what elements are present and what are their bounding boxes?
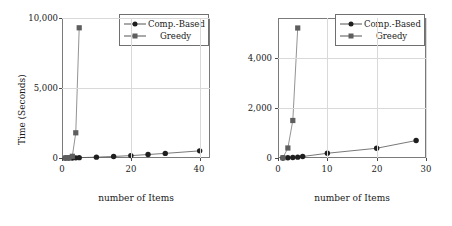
y-tick-label-right-1: 2,000	[226, 104, 272, 113]
circle-marker-icon	[124, 18, 146, 30]
x-axis-tick	[278, 158, 279, 161]
y-axis-tick	[275, 108, 278, 109]
circle-marker-icon	[413, 138, 418, 143]
x-tick-label-left-0: 0	[47, 165, 77, 174]
x-axis-tick	[200, 158, 201, 161]
x-axis-title-left: number of Items	[98, 194, 174, 203]
circle-marker-icon	[145, 152, 150, 157]
square-marker-icon	[285, 145, 290, 150]
x-gridline	[131, 18, 132, 158]
x-axis-tick	[377, 158, 378, 161]
chart-panel-right: 4,000 2,000 0 0 10 20 30 number of Items…	[226, 0, 452, 226]
legend-entry-comp-based-left: Comp.-Based	[124, 18, 203, 30]
y-axis-tick	[59, 88, 62, 89]
legend-label-comp-based-left: Comp.-Based	[146, 20, 205, 29]
x-axis-tick	[131, 158, 132, 161]
square-marker-icon	[77, 25, 82, 30]
x-gridline	[327, 18, 328, 158]
figure-two-panel-line-charts: 10,000 5,000 0 0 20 40 Time (Seconds) nu…	[0, 0, 452, 226]
y-axis-tick	[59, 18, 62, 19]
x-tick-label-right-1: 10	[312, 165, 342, 174]
y-gridline	[62, 88, 210, 89]
square-marker-icon	[340, 30, 362, 42]
square-marker-icon	[73, 130, 78, 135]
circle-marker-icon	[111, 154, 116, 159]
x-axis-title-right: number of Items	[314, 194, 390, 203]
legend-entry-greedy-left: Greedy	[124, 30, 203, 42]
x-gridline	[200, 18, 201, 158]
legend-label-greedy-left: Greedy	[146, 32, 191, 41]
circle-marker-icon	[340, 18, 362, 30]
y-tick-label-right-0: 4,000	[226, 54, 272, 63]
circle-marker-icon	[290, 155, 295, 160]
x-gridline	[377, 18, 378, 158]
circle-marker-icon	[300, 154, 305, 159]
circle-marker-icon	[94, 154, 99, 159]
x-axis-tick	[327, 158, 328, 161]
y-tick-label-left-1: 5,000	[6, 84, 58, 93]
circle-marker-icon	[285, 155, 290, 160]
square-marker-icon	[280, 155, 285, 160]
x-tick-label-left-1: 20	[116, 165, 146, 174]
x-tick-label-right-3: 30	[411, 165, 441, 174]
square-marker-icon	[290, 118, 295, 123]
y-gridline	[278, 58, 426, 59]
chart-panel-left: 10,000 5,000 0 0 20 40 Time (Seconds) nu…	[0, 0, 226, 226]
circle-marker-icon	[77, 155, 82, 160]
square-marker-icon	[124, 30, 146, 42]
y-tick-label-left-0: 10,000	[6, 14, 58, 23]
y-axis-tick	[275, 58, 278, 59]
legend-label-comp-based-right: Comp.-Based	[362, 20, 421, 29]
legend-right: Comp.-Based Greedy	[335, 14, 425, 46]
legend-entry-comp-based-right: Comp.-Based	[340, 18, 419, 30]
y-axis-title-left: Time (Seconds)	[18, 74, 27, 145]
y-gridline	[62, 18, 210, 19]
legend-entry-greedy-right: Greedy	[340, 30, 419, 42]
series-line-greedy	[283, 28, 298, 158]
x-axis-tick	[426, 158, 427, 161]
x-gridline	[426, 18, 427, 158]
x-axis-tick	[62, 158, 63, 161]
y-tick-label-left-2: 0	[6, 154, 58, 163]
circle-marker-icon	[163, 151, 168, 156]
y-tick-label-right-2: 0	[226, 154, 272, 163]
square-marker-icon	[70, 154, 75, 159]
legend-label-greedy-right: Greedy	[362, 32, 407, 41]
series-line-greedy	[65, 28, 79, 158]
circle-marker-icon	[295, 154, 300, 159]
x-tick-label-right-2: 20	[362, 165, 392, 174]
square-marker-icon	[295, 25, 300, 30]
y-gridline	[278, 108, 426, 109]
x-tick-label-right-0: 0	[263, 165, 293, 174]
x-tick-label-left-2: 40	[184, 165, 214, 174]
